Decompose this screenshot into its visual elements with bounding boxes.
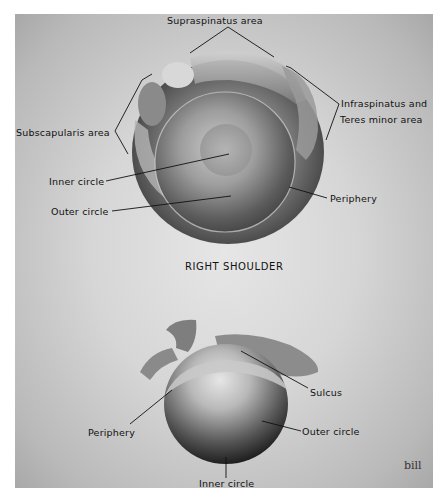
label-sulcus: Sulcus — [310, 387, 342, 398]
label-inner-circle-top: Inner circle — [49, 176, 104, 187]
artist-signature: bill — [404, 459, 422, 472]
label-outer-circle-top: Outer circle — [51, 206, 109, 217]
label-subscapularis-area: Subscapularis area — [16, 127, 110, 138]
label-periphery-bottom: Periphery — [88, 427, 135, 438]
label-inner-circle-bottom: Inner circle — [199, 478, 254, 489]
label-periphery-top: Periphery — [330, 193, 377, 204]
label-outer-circle-bottom: Outer circle — [302, 426, 360, 437]
figure-title: RIGHT SHOULDER — [185, 261, 283, 272]
label-infraspinatus-line2: Teres minor area — [339, 114, 423, 125]
shoulder-anatomy-diagram: Supraspinatus area Infraspinatus and Ter… — [0, 0, 441, 499]
label-infraspinatus-line1: Infraspinatus and — [341, 98, 427, 109]
top-view-humeral-head — [132, 51, 324, 244]
bottom-view-humeral-head — [140, 320, 318, 464]
label-supraspinatus-area: Supraspinatus area — [167, 15, 263, 26]
